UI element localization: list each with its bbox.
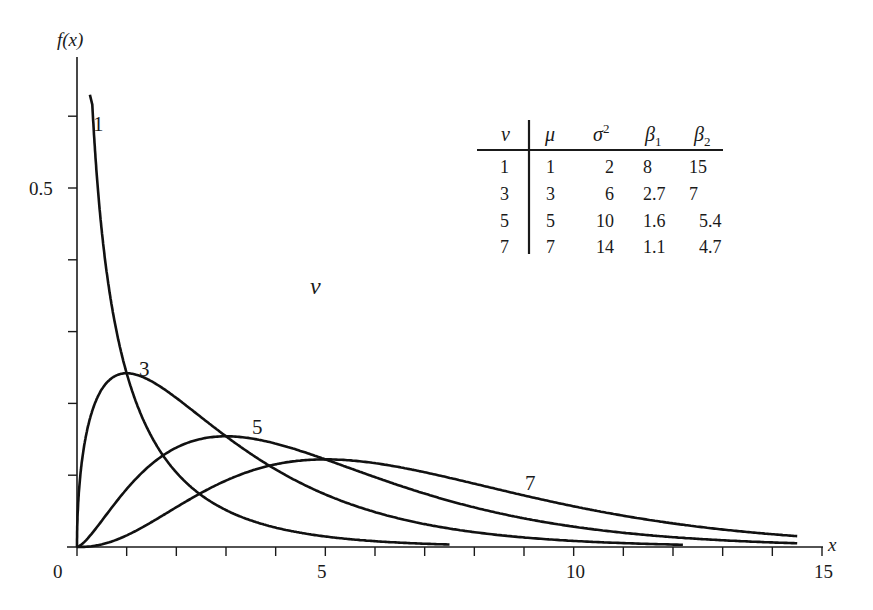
- table-row: 5 5 10 1.6 5.4: [500, 211, 722, 231]
- table-row: 7 7 14 1.1 4.7: [500, 237, 722, 257]
- x-tick-label-15: 15: [814, 561, 833, 582]
- x-axis-ticks: [77, 547, 822, 556]
- y-axis-title: f(x): [57, 29, 83, 51]
- y-tick-label-0.5: 0.5: [29, 178, 53, 199]
- parameter-table: ν μ σ2 β1 β2 1 1 2 8 15 3 3 6 2.7 7 5: [477, 120, 723, 257]
- axes: [67, 57, 823, 556]
- cell-mu: 7: [546, 237, 555, 257]
- x-axis-title: x: [827, 534, 837, 555]
- curve-nu-7: [77, 459, 797, 547]
- curve-label-3: 3: [139, 357, 150, 381]
- cell-b2: 7: [689, 184, 698, 204]
- cell-var: 6: [605, 184, 614, 204]
- cell-nu: 3: [500, 184, 509, 204]
- cell-b1: 8: [643, 157, 652, 177]
- nu-annotation: ν: [310, 273, 321, 299]
- cell-b1: 1.6: [643, 211, 666, 231]
- x-tick-label-10: 10: [566, 561, 585, 582]
- cell-mu: 5: [546, 211, 555, 231]
- table-header-beta2: β2: [693, 123, 710, 149]
- cell-var: 14: [596, 237, 614, 257]
- cell-b2: 4.7: [699, 237, 722, 257]
- x-tick-label-0: 0: [53, 561, 63, 582]
- cell-nu: 7: [500, 237, 509, 257]
- curve-nu-5: [77, 436, 797, 547]
- cell-b2: 15: [689, 157, 707, 177]
- cell-b2: 5.4: [699, 211, 722, 231]
- cell-nu: 1: [500, 157, 509, 177]
- cell-b1: 1.1: [643, 237, 666, 257]
- table-header-mu: μ: [544, 123, 555, 146]
- cell-var: 10: [596, 211, 614, 231]
- table-header-nu: ν: [501, 123, 510, 145]
- curve-label-7: 7: [525, 471, 536, 495]
- x-tick-label-5: 5: [317, 561, 327, 582]
- curve-label-5: 5: [252, 415, 263, 439]
- y-axis-ticks: [68, 116, 77, 475]
- table-row: 1 1 2 8 15: [500, 157, 707, 177]
- curve-nu-1: [90, 95, 450, 545]
- chi-square-density-chart: f(x) x 0.5 0 5 10 15 1 3 5 7 ν ν μ σ2 β1…: [0, 0, 873, 610]
- cell-b1: 2.7: [643, 184, 666, 204]
- cell-nu: 5: [500, 211, 509, 231]
- cell-mu: 3: [546, 184, 555, 204]
- cell-mu: 1: [546, 157, 555, 177]
- curve-label-1: 1: [93, 112, 104, 136]
- table-header-sigma2: σ2: [593, 121, 609, 145]
- table-header-beta1: β1: [644, 123, 661, 149]
- cell-var: 2: [605, 157, 614, 177]
